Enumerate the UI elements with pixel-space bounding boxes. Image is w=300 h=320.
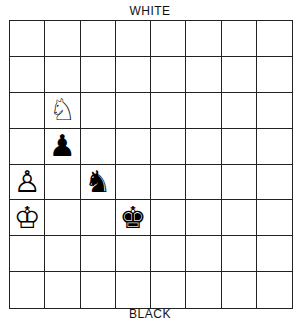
board-square[interactable] bbox=[222, 57, 257, 93]
board-square[interactable] bbox=[81, 272, 116, 308]
board-square[interactable] bbox=[10, 272, 45, 308]
board-square[interactable] bbox=[151, 21, 186, 57]
black-king-icon[interactable]: ♚ bbox=[119, 203, 146, 233]
white-pawn-icon[interactable]: ♙ bbox=[14, 167, 41, 197]
board-square[interactable]: ♟ bbox=[45, 129, 80, 165]
bottom-side-label: BLACK bbox=[0, 307, 300, 320]
board-square[interactable] bbox=[151, 129, 186, 165]
board-square[interactable] bbox=[81, 21, 116, 57]
board-square[interactable] bbox=[222, 200, 257, 236]
board-square[interactable]: ♞ bbox=[81, 165, 116, 201]
board-square[interactable] bbox=[10, 57, 45, 93]
board-square[interactable] bbox=[45, 200, 80, 236]
board-square[interactable] bbox=[186, 272, 221, 308]
board-square[interactable] bbox=[151, 93, 186, 129]
board-square[interactable] bbox=[222, 93, 257, 129]
board-square[interactable] bbox=[186, 200, 221, 236]
board-square[interactable] bbox=[257, 129, 292, 165]
board-square[interactable]: ♚ bbox=[116, 200, 151, 236]
board-square[interactable] bbox=[10, 129, 45, 165]
board-square[interactable] bbox=[116, 93, 151, 129]
board-square[interactable] bbox=[222, 21, 257, 57]
board-square[interactable] bbox=[222, 165, 257, 201]
board-square[interactable] bbox=[222, 272, 257, 308]
board-square[interactable] bbox=[45, 165, 80, 201]
board-square[interactable] bbox=[10, 21, 45, 57]
board-square[interactable] bbox=[222, 236, 257, 272]
board-square[interactable] bbox=[257, 200, 292, 236]
board-square[interactable] bbox=[186, 93, 221, 129]
board-square[interactable] bbox=[116, 129, 151, 165]
board-square[interactable] bbox=[222, 129, 257, 165]
board-square[interactable] bbox=[45, 21, 80, 57]
board-square[interactable] bbox=[186, 57, 221, 93]
board-square[interactable] bbox=[257, 165, 292, 201]
board-square[interactable] bbox=[151, 236, 186, 272]
board-square[interactable] bbox=[257, 272, 292, 308]
board-square[interactable] bbox=[257, 236, 292, 272]
board-square[interactable] bbox=[257, 21, 292, 57]
board-square[interactable] bbox=[116, 57, 151, 93]
board-square[interactable] bbox=[151, 200, 186, 236]
board-square[interactable] bbox=[45, 57, 80, 93]
board-square[interactable] bbox=[81, 236, 116, 272]
board-square[interactable] bbox=[116, 236, 151, 272]
board-square[interactable] bbox=[186, 129, 221, 165]
board-square[interactable] bbox=[186, 236, 221, 272]
white-knight-icon[interactable]: ♘ bbox=[49, 95, 76, 125]
board-square[interactable] bbox=[151, 57, 186, 93]
board-square[interactable] bbox=[186, 21, 221, 57]
board-square[interactable] bbox=[81, 200, 116, 236]
white-king-icon[interactable]: ♔ bbox=[14, 203, 41, 233]
board-square[interactable]: ♘ bbox=[45, 93, 80, 129]
top-side-label: WHITE bbox=[0, 4, 300, 18]
board-square[interactable] bbox=[45, 272, 80, 308]
board-square[interactable] bbox=[257, 93, 292, 129]
board-square[interactable] bbox=[116, 21, 151, 57]
board-square[interactable] bbox=[257, 57, 292, 93]
board-square[interactable] bbox=[151, 272, 186, 308]
board-square[interactable] bbox=[10, 93, 45, 129]
board-square[interactable] bbox=[151, 165, 186, 201]
board-square[interactable] bbox=[116, 165, 151, 201]
board-square[interactable] bbox=[81, 93, 116, 129]
board-square[interactable] bbox=[81, 57, 116, 93]
black-knight-icon[interactable]: ♞ bbox=[84, 167, 111, 197]
black-pawn-icon[interactable]: ♟ bbox=[49, 131, 76, 161]
board-square[interactable] bbox=[186, 165, 221, 201]
chess-board: ♘♟♙♞♔♚ bbox=[9, 20, 293, 309]
board-square[interactable] bbox=[116, 272, 151, 308]
board-square[interactable]: ♔ bbox=[10, 200, 45, 236]
board-square[interactable] bbox=[45, 236, 80, 272]
board-square[interactable] bbox=[81, 129, 116, 165]
board-square[interactable] bbox=[10, 236, 45, 272]
board-square[interactable]: ♙ bbox=[10, 165, 45, 201]
